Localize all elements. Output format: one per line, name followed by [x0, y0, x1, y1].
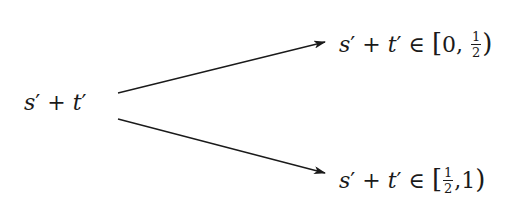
interval-end: ,1 [454, 168, 475, 193]
arrow-to-lower-half [118, 42, 325, 93]
var-s: s [24, 90, 35, 115]
var-t: t [388, 32, 397, 57]
prime: ′ [35, 90, 40, 115]
var-s: s [339, 168, 350, 193]
var-s: s [339, 32, 350, 57]
open-bracket: [ [432, 164, 442, 194]
numerator: 1 [443, 166, 453, 181]
fraction-one-half: 12 [471, 30, 481, 59]
prime: ′ [397, 168, 402, 193]
target-node-upper-half: s′ + t′ ∈ [12,1) [339, 166, 485, 197]
numerator: 1 [471, 30, 481, 45]
element-of-symbol: ∈ [409, 32, 425, 57]
target-node-lower-half: s′ + t′ ∈ [0, 12) [339, 30, 492, 61]
prime: ′ [82, 90, 87, 115]
prime: ′ [397, 32, 402, 57]
source-node-label: s′ + t′ [24, 92, 87, 114]
element-of-symbol: ∈ [409, 168, 425, 193]
prime: ′ [350, 32, 355, 57]
prime: ′ [350, 168, 355, 193]
fraction-one-half: 12 [443, 166, 453, 195]
plus-operator: + [362, 168, 380, 193]
plus-operator: + [362, 32, 380, 57]
denominator: 2 [443, 181, 453, 195]
open-bracket: [ [432, 28, 442, 58]
close-paren: ) [482, 28, 492, 58]
diagram-canvas: s′ + t′ s′ + t′ ∈ [0, 12) s′ + t′ ∈ [12,… [0, 0, 522, 203]
interval-start: 0, [442, 32, 463, 57]
plus-operator: + [47, 90, 65, 115]
var-t: t [73, 90, 82, 115]
close-paren: ) [475, 164, 485, 194]
var-t: t [388, 168, 397, 193]
arrow-to-upper-half [118, 119, 325, 173]
denominator: 2 [471, 45, 481, 59]
